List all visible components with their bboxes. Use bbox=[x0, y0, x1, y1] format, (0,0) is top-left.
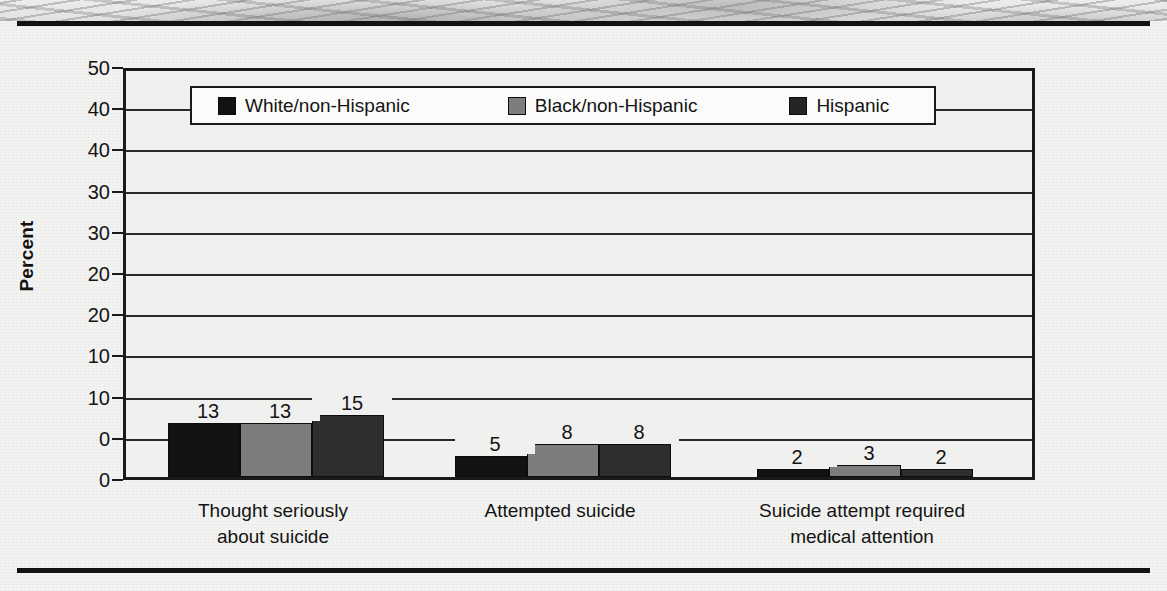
category-label: Thought seriouslyabout suicide bbox=[123, 498, 423, 549]
bar-value-label: 15 bbox=[312, 393, 392, 413]
y-tickmark bbox=[112, 67, 123, 69]
y-tickmark bbox=[112, 438, 123, 440]
y-tickmark bbox=[112, 355, 123, 357]
legend-label: White/non-Hispanic bbox=[245, 95, 410, 117]
y-tickmark bbox=[112, 108, 123, 110]
bar-value-label: 8 bbox=[599, 422, 679, 442]
y-tick-label: 20 bbox=[64, 305, 110, 325]
chart-legend: White/non-HispanicBlack/non-HispanicHisp… bbox=[190, 86, 936, 125]
y-tickmark bbox=[112, 397, 123, 399]
y-tick-label: 40 bbox=[64, 140, 110, 160]
y-axis-tick-labels: 50404030302020101000 bbox=[58, 0, 110, 591]
y-tick-label: 40 bbox=[64, 99, 110, 119]
bar-value-label: 3 bbox=[829, 443, 909, 463]
legend-item: White/non-Hispanic bbox=[218, 88, 410, 123]
legend-item: Black/non-Hispanic bbox=[508, 88, 698, 123]
bar-value-label: 8 bbox=[527, 422, 607, 442]
scan-artifact-band bbox=[0, 0, 1167, 21]
bar-value-label: 2 bbox=[757, 447, 837, 467]
top-rule bbox=[17, 21, 1150, 26]
bar-value-label: 5 bbox=[455, 434, 535, 454]
y-tickmark bbox=[112, 273, 123, 275]
y-tick-label: 0 bbox=[64, 470, 110, 490]
legend-swatch-gray bbox=[508, 97, 526, 115]
y-tick-label: 30 bbox=[64, 223, 110, 243]
figure-page: Percent 50404030302020101000 13131558823… bbox=[0, 0, 1167, 591]
bar-value-labels: 131315588232 bbox=[126, 71, 1032, 477]
legend-item: Hispanic bbox=[789, 88, 889, 123]
bottom-rule bbox=[17, 568, 1150, 573]
y-tickmark bbox=[112, 191, 123, 193]
category-label-line: Suicide attempt required bbox=[712, 498, 1012, 524]
category-label-line: medical attention bbox=[712, 524, 1012, 550]
category-label-line: Thought seriously bbox=[123, 498, 423, 524]
y-tickmark bbox=[112, 149, 123, 151]
y-tickmark bbox=[112, 232, 123, 234]
category-label: Attempted suicide bbox=[410, 498, 710, 524]
y-tick-label: 30 bbox=[64, 182, 110, 202]
legend-label: Black/non-Hispanic bbox=[535, 95, 698, 117]
category-label-line: about suicide bbox=[123, 524, 423, 550]
legend-swatch-black bbox=[218, 97, 236, 115]
y-axis-title: Percent bbox=[16, 196, 38, 316]
y-tick-label: 50 bbox=[64, 58, 110, 78]
y-tick-label: 10 bbox=[64, 388, 110, 408]
y-tick-label: 10 bbox=[64, 346, 110, 366]
bar-value-label: 2 bbox=[901, 447, 981, 467]
y-tick-label: 20 bbox=[64, 264, 110, 284]
category-label: Suicide attempt requiredmedical attentio… bbox=[712, 498, 1012, 549]
y-tickmark bbox=[112, 479, 123, 481]
legend-swatch-dark bbox=[789, 97, 807, 115]
plot-area: 131315588232 bbox=[123, 68, 1035, 480]
y-tickmark bbox=[112, 314, 123, 316]
bar-value-label: 13 bbox=[240, 401, 320, 421]
legend-label: Hispanic bbox=[816, 95, 889, 117]
category-label-line: Attempted suicide bbox=[410, 498, 710, 524]
bar-value-label: 13 bbox=[168, 401, 248, 421]
y-tick-label: 0 bbox=[64, 429, 110, 449]
